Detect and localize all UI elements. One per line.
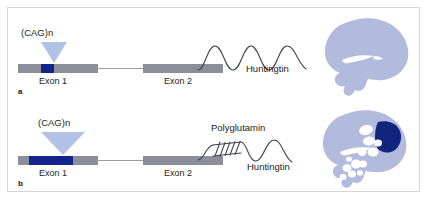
intron-line-a [98, 68, 143, 69]
huntingtin-label-a: Huntingtin [246, 64, 289, 74]
brain-affected [316, 108, 418, 194]
huntingtin-label-b: Huntingtin [247, 162, 290, 172]
intron-line-b [98, 160, 143, 161]
polyglutamine-label: Polyglutamin [211, 123, 265, 133]
cag-funnel-a [41, 42, 67, 63]
figure-caption [10, 200, 310, 211]
huntington-figure: (CAG)n Exon 1 Exon 2 Huntingtin [0, 0, 436, 213]
cag-repeat-block-b [29, 156, 73, 165]
cag-repeat-block-a [41, 64, 54, 73]
panel-a: (CAG)n Exon 1 Exon 2 Huntingtin [8, 8, 421, 100]
exon2-label-a: Exon 2 [164, 77, 192, 86]
cag-repeat-label-b: (CAG)n [38, 118, 70, 128]
panel-letter-a: a [18, 88, 22, 96]
exon2-label-b: Exon 2 [164, 169, 192, 178]
exon1-label-a: Exon 1 [39, 77, 67, 86]
panel-letter-b: b [18, 180, 23, 188]
cag-funnel-b [41, 132, 85, 155]
exon1-bar-a [18, 64, 98, 73]
exon1-label-b: Exon 1 [39, 169, 67, 178]
figure-frame: (CAG)n Exon 1 Exon 2 Huntingtin [7, 7, 420, 192]
cag-repeat-label-a: (CAG)n [21, 28, 53, 38]
brain-normal [318, 16, 416, 100]
panel-b: (CAG)n Exon 1 Exon 2 Polyglutamin [8, 100, 421, 192]
